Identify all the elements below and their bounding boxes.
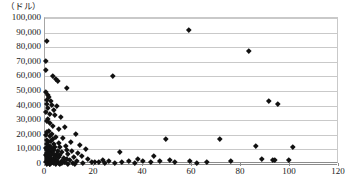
data-point [55,78,60,83]
x-axis-tick-label: 100 [282,166,296,177]
data-point [246,48,251,53]
x-axis-tick-label: 40 [138,166,147,177]
gridline [45,106,337,107]
data-point [79,153,84,158]
data-point [73,132,78,137]
x-axis-tick-label: 80 [236,166,245,177]
data-point [218,137,223,142]
data-point [43,67,48,72]
data-point [253,143,258,148]
x-axis-labels: 020406080100120 [44,166,338,180]
data-point [68,139,73,144]
gridline [45,18,337,19]
y-axis-tick-label: 90,000 [16,27,41,36]
gridline [45,135,337,136]
data-point [64,85,69,90]
y-axis-tick-label: 70,000 [16,56,41,65]
data-point [60,135,65,140]
data-point [50,123,55,128]
data-point [290,144,295,149]
y-axis-labels: 010,00020,00030,00040,00050,00060,00070,… [0,17,41,163]
data-point [44,38,49,43]
x-axis-tick-label: 0 [42,166,47,177]
data-point [267,98,272,103]
data-point [229,159,234,164]
data-point [158,159,163,164]
data-point [151,153,156,158]
data-point [110,73,115,78]
y-axis-tick-label: 100,000 [12,13,41,22]
data-point [259,156,264,161]
y-axis-tick-label: 80,000 [16,42,41,51]
data-point [164,136,169,141]
y-axis-tick-label: 60,000 [16,71,41,80]
gridline [45,47,337,48]
data-point [83,146,88,151]
gridline [45,76,337,77]
data-point [58,115,63,120]
y-axis-tick-label: 30,000 [16,115,41,124]
data-point [52,113,57,118]
y-axis-tick-label: 50,000 [16,86,41,95]
data-point [56,126,61,131]
y-axis-tick-label: 40,000 [16,100,41,109]
data-point [186,27,191,32]
y-axis-tick-label: 10,000 [16,144,41,153]
data-point [286,157,291,162]
scatter-chart: （ドル） 010,00020,00030,00040,00050,00060,0… [0,0,352,192]
gridline [45,149,337,150]
plot-area [44,17,338,163]
gridline [45,33,337,34]
data-point [126,158,131,163]
gridline [45,120,337,121]
data-point [55,103,60,108]
y-axis-tick-label: 20,000 [16,129,41,138]
data-point [77,142,82,147]
x-axis-tick-label: 60 [187,166,196,177]
gridline [45,91,337,92]
gridline [45,62,337,63]
x-axis-tick-label: 20 [89,166,98,177]
x-axis-tick-label: 120 [331,166,345,177]
data-point [62,124,67,129]
y-axis-tick-label: 0 [37,159,42,168]
y-axis-unit-label: （ドル） [6,1,41,11]
